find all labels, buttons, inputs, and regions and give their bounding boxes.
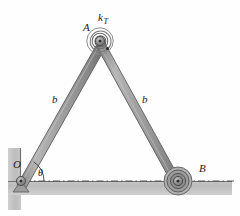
label-pivot-O: O — [13, 158, 21, 170]
label-spring-kT: kT — [98, 11, 108, 26]
link-left-highlight — [19, 47, 98, 187]
roller-center-B — [176, 179, 179, 182]
spring-anchor-dot — [106, 47, 109, 50]
ground-support — [8, 181, 232, 195]
mechanism-figure: A kT b b O θ B — [0, 0, 240, 216]
label-roller-B: B — [199, 162, 206, 174]
label-apex-A: A — [82, 21, 90, 33]
roller-support-B — [164, 167, 192, 195]
pin-center-A — [99, 40, 102, 43]
link-left-OA — [17, 46, 104, 190]
pin-center-O — [20, 180, 23, 183]
link-right-highlight — [99, 45, 177, 187]
label-right-link-b: b — [142, 93, 148, 105]
label-angle-theta: θ — [38, 167, 43, 178]
label-spring-subscript: T — [103, 17, 108, 26]
link-right-AB — [97, 42, 183, 188]
figure-canvas: A kT b b O θ B — [0, 0, 240, 216]
label-left-link-b: b — [52, 93, 58, 105]
